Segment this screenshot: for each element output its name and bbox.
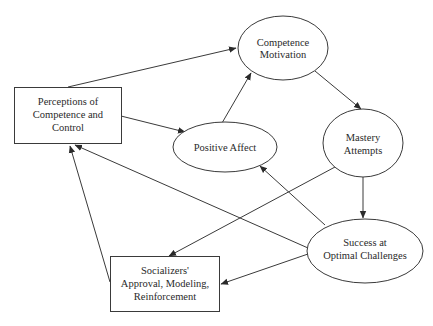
node-success-line-2: Optimal Challenges	[323, 250, 407, 261]
node-perceptions-line-3: Control	[52, 122, 84, 133]
node-competence-motivation: Competence Motivation	[238, 16, 328, 80]
edge-perceptions-to-positive-affect	[121, 116, 185, 132]
node-perceptions-line-1: Perceptions of	[38, 96, 99, 107]
node-socializers-line-3: Reinforcement	[134, 291, 196, 302]
node-socializers-line-1: Socializers'	[141, 265, 189, 276]
node-competence-motivation-line-1: Competence	[257, 37, 310, 48]
node-perceptions: Perceptions of Competence and Control	[15, 88, 122, 144]
node-perceptions-line-2: Competence and	[33, 109, 104, 120]
node-mastery-attempts-line-2: Attempts	[344, 145, 383, 156]
edge-success-to-socializers	[221, 254, 308, 284]
node-positive-affect: Positive Affect	[173, 122, 277, 172]
node-socializers-line-2: Approval, Modeling,	[121, 278, 209, 289]
node-competence-motivation-line-2: Motivation	[260, 49, 307, 60]
edge-perceptions-to-competence-motivation	[68, 48, 236, 87]
edge-competence-motivation-to-mastery-attempts	[315, 71, 361, 109]
node-mastery-attempts: Mastery Attempts	[323, 109, 403, 177]
node-socializers: Socializers' Approval, Modeling, Reinfor…	[111, 257, 220, 312]
edge-socializers-to-perceptions	[70, 146, 110, 282]
node-success: Success at Optimal Challenges	[307, 219, 423, 283]
node-mastery-attempts-line-1: Mastery	[346, 132, 381, 143]
edge-success-to-positive-affect	[260, 166, 325, 225]
node-success-line-1: Success at	[343, 237, 387, 248]
node-positive-affect-line-1: Positive Affect	[194, 142, 257, 153]
edge-positive-affect-to-competence-motivation	[222, 73, 251, 123]
motivation-diagram: Perceptions of Competence and Control Co…	[0, 0, 433, 326]
